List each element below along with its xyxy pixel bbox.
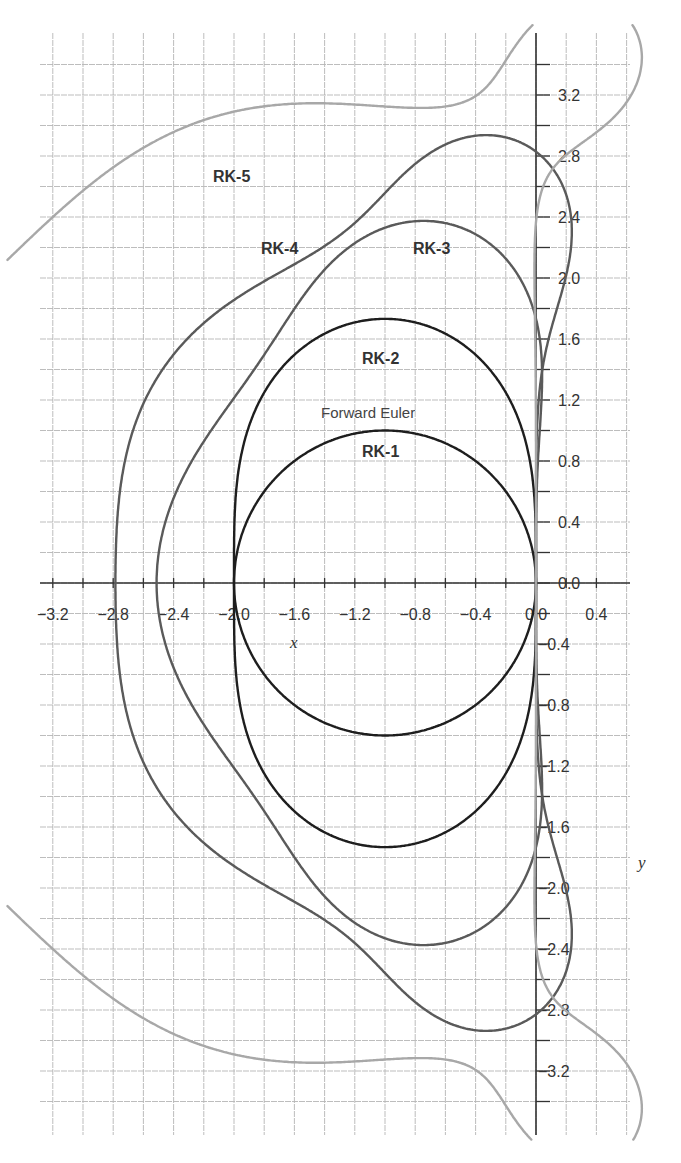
- grid-lines: [40, 33, 630, 1135]
- label-rk1: RK-1: [362, 443, 399, 460]
- x-tick-label: 0.4: [585, 606, 607, 623]
- y-tick-label: −3.2: [538, 1063, 570, 1080]
- y-tick-label: 3.2: [558, 87, 580, 104]
- y-tick-label: −0.8: [538, 697, 570, 714]
- x-tick-label: −1.2: [339, 606, 371, 623]
- label-rk2: RK-2: [362, 350, 399, 367]
- x-tick-label: −2.4: [158, 606, 190, 623]
- y-tick-label: 0.4: [558, 514, 580, 531]
- x-tick-label: −1.6: [279, 606, 311, 623]
- y-tick-label: −0.4: [538, 636, 570, 653]
- label-forward-euler: Forward Euler: [321, 404, 415, 421]
- x-tick-label: −2.8: [97, 606, 129, 623]
- x-tick-label: −0.4: [460, 606, 492, 623]
- y-axis-title: y: [636, 853, 646, 872]
- y-tick-label: 1.6: [558, 331, 580, 348]
- y-tick-label: 0.8: [558, 453, 580, 470]
- x-axis-title: x: [289, 633, 298, 652]
- stability-region-chart: −3.2−2.8−2.4−2.0−1.6−1.2−0.8−0.40.00.43.…: [0, 0, 681, 1163]
- x-tick-label: −0.8: [399, 606, 431, 623]
- label-rk5: RK-5: [213, 168, 250, 185]
- label-rk4: RK-4: [261, 240, 298, 257]
- label-rk3: RK-3: [413, 240, 450, 257]
- y-tick-label: 0.0: [558, 575, 580, 592]
- y-tick-label: 1.2: [558, 392, 580, 409]
- y-tick-label: −2.4: [538, 941, 570, 958]
- y-tick-label: 2.0: [558, 270, 580, 287]
- x-tick-label: −3.2: [37, 606, 69, 623]
- y-tick-label: 2.8: [558, 148, 580, 165]
- axes: [40, 33, 630, 1135]
- y-tick-label: −1.6: [538, 819, 570, 836]
